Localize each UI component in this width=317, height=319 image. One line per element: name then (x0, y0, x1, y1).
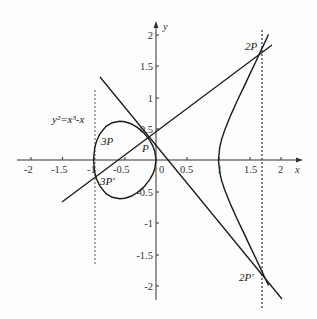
y-tick-labels: 2 1.5 1 0.5 -0.5 -1 -1.5 -2 (136, 30, 153, 292)
label-2p: 2P (245, 40, 258, 52)
svg-text:-2: -2 (24, 164, 33, 175)
label-2p-prime: 2P′ (239, 271, 254, 283)
y-axis-arrow-icon (154, 21, 159, 28)
svg-text:-1.5: -1.5 (136, 250, 153, 261)
svg-text:-1: -1 (87, 164, 96, 175)
equation-label: y²=x³-x (51, 113, 84, 125)
svg-text:1: 1 (148, 93, 153, 104)
svg-text:-1.5: -1.5 (51, 164, 68, 175)
x-axis-arrow-icon (296, 158, 303, 163)
svg-text:1.5: 1.5 (244, 164, 257, 175)
line-3p-p-2p-prime (100, 77, 282, 299)
svg-text:2: 2 (148, 30, 153, 41)
svg-text:0.5: 0.5 (180, 164, 193, 175)
axes (17, 21, 303, 300)
svg-text:-0.5: -0.5 (113, 164, 130, 175)
diagram-canvas: -2 -1.5 -1 -0.5 0 0.5 1 1.5 2 x 2 1.5 1 … (0, 0, 317, 319)
label-p: P (141, 142, 149, 154)
svg-text:0: 0 (159, 164, 164, 175)
label-3p-prime: 3P′ (99, 175, 115, 187)
label-3p: 3P (100, 135, 114, 147)
svg-text:x: x (294, 164, 300, 175)
svg-text:-1: -1 (144, 218, 153, 229)
svg-text:1.5: 1.5 (140, 61, 153, 72)
svg-text:-2: -2 (144, 281, 153, 292)
y-axis-label: y (162, 21, 168, 32)
x-tick-labels: -2 -1.5 -1 -0.5 0 0.5 1 1.5 2 x (24, 164, 300, 175)
line-3p-prime-p-2p (62, 45, 272, 202)
svg-text:-0.5: -0.5 (136, 187, 153, 198)
svg-text:1: 1 (217, 164, 222, 175)
svg-text:2: 2 (278, 164, 283, 175)
svg-text:0.5: 0.5 (140, 124, 153, 135)
elliptic-curve-diagram: -2 -1.5 -1 -0.5 0 0.5 1 1.5 2 x 2 1.5 1 … (0, 0, 317, 319)
